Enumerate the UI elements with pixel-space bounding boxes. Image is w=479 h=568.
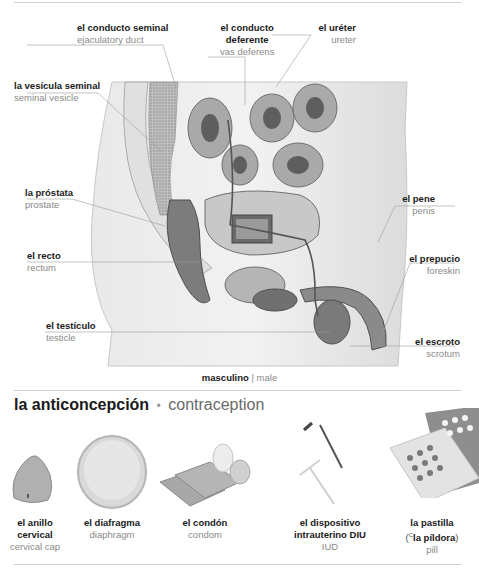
diaphragm-image <box>72 420 152 510</box>
label-prostate: la próstata prostate <box>25 187 73 211</box>
label-penis: el pene penis <box>395 193 435 217</box>
section-title-contraception: la anticoncepción • contraception <box>14 396 264 414</box>
label-scrotum: el escroto scrotum <box>400 336 460 360</box>
label-vas-deferens: el conducto deferente vas deferens <box>220 22 274 58</box>
label-ejaculatory-duct: el conducto seminal ejaculatory duct <box>77 22 168 46</box>
label-rectum: el recto rectum <box>27 250 61 274</box>
condom-image <box>155 420 255 510</box>
label-foreskin: el prepucio foreskin <box>400 253 460 277</box>
pill-pack-image <box>385 408 479 498</box>
label-seminal-vesicle: la vesícula seminal seminal vesicle <box>14 80 100 104</box>
cervical-cap-image <box>0 420 70 510</box>
label-ureter: el uréter ureter <box>311 22 356 46</box>
label-testicle: el testículo testicle <box>46 320 96 344</box>
anatomy-caption: masculino | male <box>0 372 479 383</box>
iud-image <box>280 420 380 510</box>
pill-alt-name: (Cla píldora) <box>385 529 479 544</box>
bottom-divider <box>14 564 461 565</box>
section-divider <box>14 390 461 391</box>
